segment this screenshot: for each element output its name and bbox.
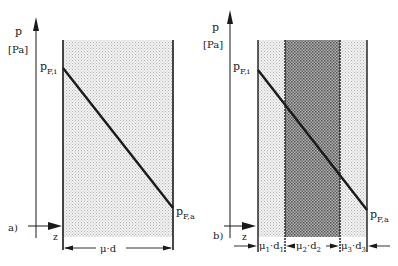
p-outer-label: pF,a — [370, 208, 389, 224]
dim-arrow-icon — [368, 244, 377, 249]
p-inner-label: pF,i — [233, 60, 250, 76]
y-axis-unit: [Pa] — [203, 39, 223, 50]
p-inner-label: pF,i — [40, 60, 57, 76]
panel-a — [28, 17, 173, 251]
panel-b — [224, 10, 390, 252]
z-axis-symbol: z — [53, 232, 58, 242]
dim-arrow-icon — [330, 244, 339, 249]
y-axis-arrow-icon — [33, 17, 39, 31]
layer-dimension-label: μ·d — [100, 243, 117, 254]
y-axis-symbol: p — [15, 25, 22, 38]
y-axis-unit: [Pa] — [8, 44, 28, 55]
layer-3-dimension-label: μ3·d3 — [341, 240, 366, 254]
panel-tag: a) — [8, 222, 18, 233]
z-axis-symbol: z — [242, 232, 247, 242]
dim-arrow-icon — [248, 244, 257, 249]
dim-arrow-right-icon — [163, 246, 172, 251]
dim-arrow-left-icon — [64, 246, 73, 251]
layer-3-fill — [340, 40, 367, 237]
y-axis-arrow-icon — [227, 10, 233, 24]
z-arrow-icon — [48, 222, 62, 230]
dim-arrow-icon — [286, 244, 295, 249]
y-axis-symbol: p — [212, 21, 219, 34]
layer-2-dimension-label: μ2·d2 — [296, 240, 321, 254]
layer-1-dimension-label: μ1·d1 — [259, 240, 284, 254]
layer-1-fill — [258, 40, 285, 237]
panel-tag: b) — [213, 230, 223, 241]
diagram-canvas: p [Pa] pF,i pF,a a) z μ·d p [Pa] pF,i pF… — [0, 0, 398, 266]
p-outer-label: pF,a — [176, 205, 195, 221]
z-arrow-icon — [242, 222, 256, 230]
